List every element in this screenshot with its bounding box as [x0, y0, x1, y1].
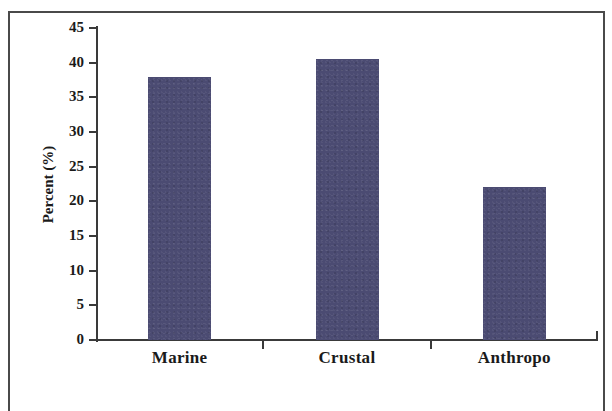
- y-tick-label: 25: [42, 159, 84, 174]
- y-tick-label: 10: [42, 263, 84, 278]
- bar: [148, 77, 211, 340]
- plot-area: [96, 28, 598, 340]
- y-tick-label: 20: [42, 193, 84, 208]
- y-tick-label: 35: [42, 89, 84, 104]
- category-label: Crustal: [257, 348, 437, 368]
- y-axis-tick-labels: 051015202530354045: [16, 0, 84, 378]
- category-label: Anthropo: [424, 348, 604, 368]
- y-tick-label: 40: [42, 55, 84, 70]
- y-tick-label: 15: [42, 228, 84, 243]
- bar: [316, 59, 379, 340]
- category-label: Marine: [90, 348, 270, 368]
- y-tick-label: 0: [42, 332, 84, 347]
- bar: [483, 187, 546, 340]
- y-tick-label: 30: [42, 124, 84, 139]
- y-tick-label: 5: [42, 297, 84, 312]
- y-tick-label: 45: [42, 20, 84, 35]
